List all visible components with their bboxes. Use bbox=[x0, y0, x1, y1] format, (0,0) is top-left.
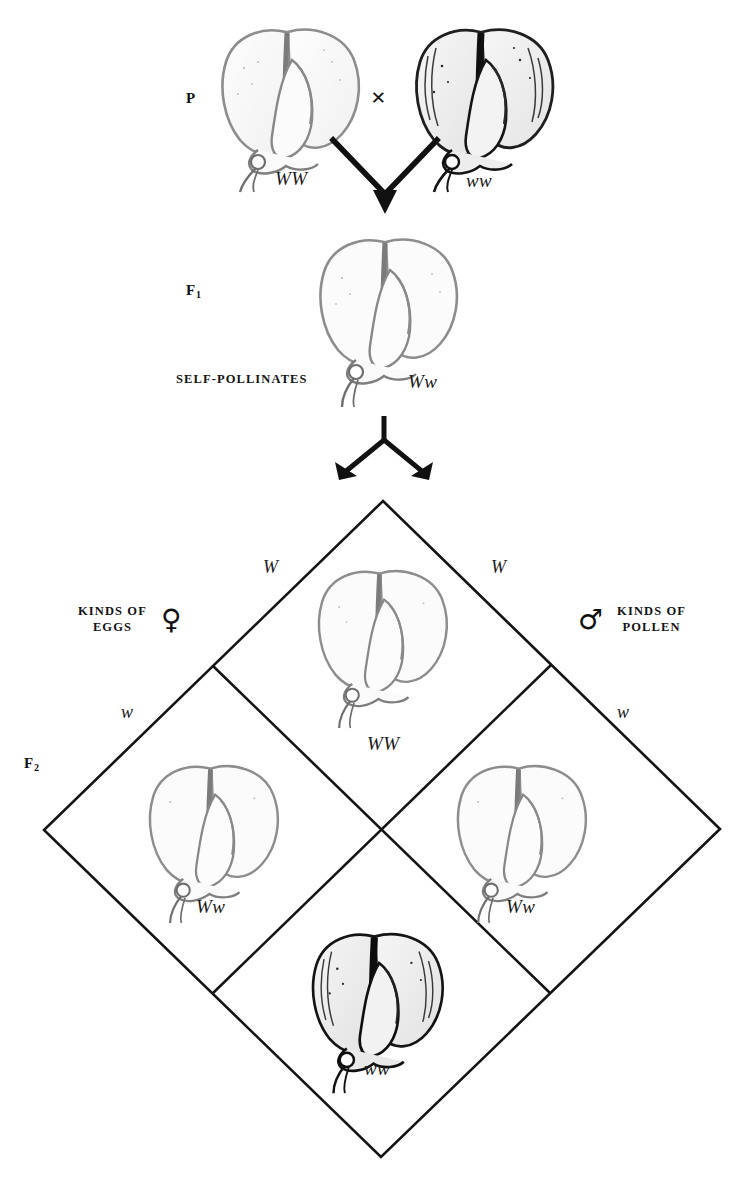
kinds-of-eggs-title: KINDS OF EGGS bbox=[78, 604, 147, 635]
self-pollinates-note: SELF-POLLINATES bbox=[176, 372, 308, 388]
p1-genotype: WW bbox=[275, 168, 307, 190]
arrow-f1-to-f2 bbox=[327, 414, 442, 482]
f1-genotype: Ww bbox=[408, 371, 437, 393]
f2-top-genotype: WW bbox=[367, 733, 399, 755]
cross-symbol: × bbox=[371, 85, 386, 111]
f1-subscript: 1 bbox=[196, 289, 201, 300]
pollen-title-line2: POLLEN bbox=[617, 620, 686, 636]
gamete-pollen-W: W bbox=[491, 557, 506, 578]
flower-illustration-f1 bbox=[312, 232, 472, 407]
f1-letter: F bbox=[186, 282, 195, 298]
eggs-title-line2: EGGS bbox=[78, 620, 147, 636]
p2-genotype: ww bbox=[466, 170, 492, 192]
gamete-egg-W: W bbox=[263, 557, 278, 578]
kinds-of-pollen-axis: ♂ KINDS OF POLLEN bbox=[578, 604, 686, 635]
f2-left-genotype: Ww bbox=[196, 896, 225, 918]
f2-bottom-genotype: ww bbox=[364, 1058, 390, 1080]
female-symbol: ♀ bbox=[161, 606, 182, 634]
kinds-of-eggs-axis: KINDS OF EGGS ♀ bbox=[78, 604, 181, 635]
arrow-p-to-f1 bbox=[325, 136, 445, 218]
f2-right-genotype: Ww bbox=[506, 896, 535, 918]
gamete-egg-w: w bbox=[121, 702, 133, 723]
p-generation-label: P bbox=[186, 90, 195, 107]
gamete-pollen-w: w bbox=[617, 702, 629, 723]
flower-illustration-f2-top bbox=[311, 562, 461, 730]
male-symbol: ♂ bbox=[578, 606, 603, 634]
kinds-of-pollen-title: KINDS OF POLLEN bbox=[617, 604, 686, 635]
eggs-title-line1: KINDS OF bbox=[78, 604, 147, 620]
f1-generation-label: F1 bbox=[186, 282, 201, 299]
figure-canvas: P bbox=[0, 0, 755, 1191]
pollen-title-line1: KINDS OF bbox=[617, 604, 686, 620]
